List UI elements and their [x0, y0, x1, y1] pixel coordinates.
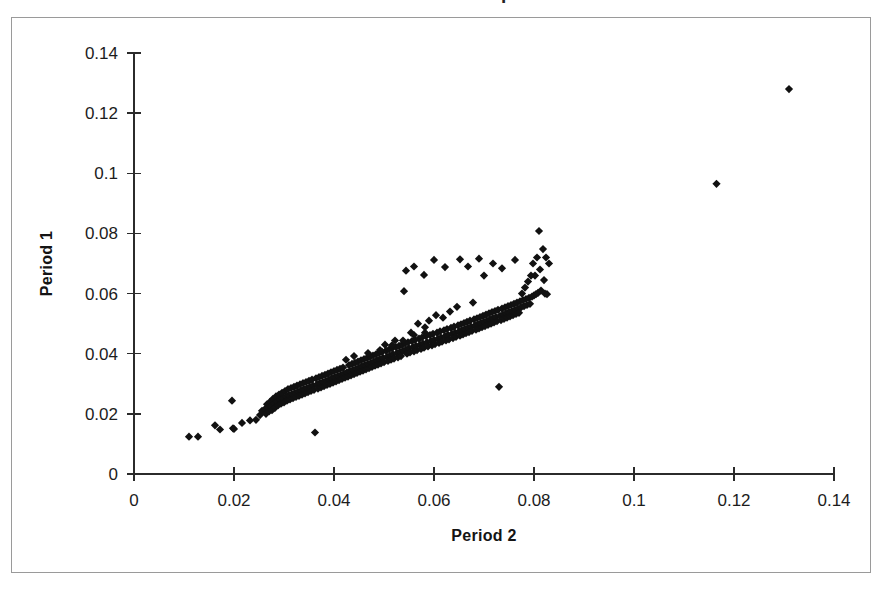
data-point	[785, 85, 793, 93]
data-point	[495, 383, 503, 391]
x-tick-label-6: 0.12	[717, 491, 750, 510]
data-point	[430, 256, 438, 264]
data-point	[400, 287, 408, 295]
data-point	[456, 255, 464, 263]
data-point	[533, 253, 541, 261]
data-point	[185, 433, 193, 441]
data-point	[414, 320, 422, 328]
data-point	[475, 255, 483, 263]
chart-svg: 00.020.040.060.080.10.120.1400.020.040.0…	[12, 18, 872, 574]
data-point	[535, 227, 543, 235]
x-tick-label-0: 0	[129, 491, 138, 510]
data-point-group	[185, 85, 793, 441]
y-tick-label-1: 0.02	[85, 405, 118, 424]
scatter-chart: 00.020.040.060.080.10.120.1400.020.040.0…	[12, 18, 872, 574]
y-axis-title: Period 1	[38, 231, 55, 297]
x-tick-label-2: 0.04	[317, 491, 350, 510]
data-point	[425, 317, 433, 325]
data-point	[228, 397, 236, 405]
x-tick-label-5: 0.1	[622, 491, 646, 510]
data-point	[511, 256, 519, 264]
data-point	[480, 271, 488, 279]
data-point	[536, 265, 544, 273]
data-point	[446, 308, 454, 316]
data-point	[540, 276, 548, 284]
y-tick-label-7: 0.14	[85, 44, 118, 63]
y-tick-label-5: 0.1	[94, 164, 118, 183]
data-point	[464, 262, 472, 270]
x-tick-label-1: 0.02	[217, 491, 250, 510]
y-tick-label-2: 0.04	[85, 345, 118, 364]
data-point	[469, 298, 477, 306]
data-point	[432, 311, 440, 319]
data-point	[712, 180, 720, 188]
data-point	[529, 259, 537, 267]
y-tick-label-0: 0	[109, 465, 118, 484]
cropped-title-text: Period 1 vs. Period 2 plot	[300, 0, 537, 4]
data-point	[439, 314, 447, 322]
y-tick-label-3: 0.06	[85, 285, 118, 304]
data-point	[498, 264, 506, 272]
data-point	[238, 419, 246, 427]
x-tick-label-3: 0.06	[417, 491, 450, 510]
data-point	[539, 245, 547, 253]
data-point	[402, 267, 410, 275]
data-point	[453, 303, 461, 311]
data-point	[230, 425, 238, 433]
x-axis-title: Period 2	[451, 527, 517, 544]
figure-frame: 00.020.040.060.080.10.120.1400.020.040.0…	[11, 17, 871, 573]
data-point	[420, 271, 428, 279]
data-point	[311, 428, 319, 436]
data-point	[194, 433, 202, 441]
data-point	[441, 263, 449, 271]
data-point	[410, 262, 418, 270]
cropped-title-remnant: Period 1 vs. Period 2 plot	[0, 0, 885, 12]
y-tick-label-4: 0.08	[85, 224, 118, 243]
x-tick-label-4: 0.08	[517, 491, 550, 510]
x-tick-label-7: 0.14	[817, 491, 850, 510]
y-tick-label-6: 0.12	[85, 104, 118, 123]
data-point	[489, 259, 497, 267]
